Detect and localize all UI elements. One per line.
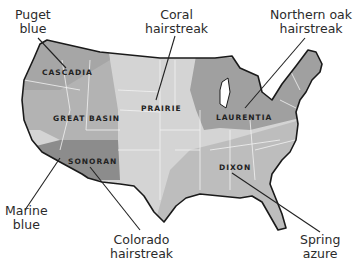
callout-spring-azure: Spring azure <box>300 233 340 261</box>
region-label-cascadia: CASCADIA <box>42 68 93 77</box>
us-map <box>0 0 355 264</box>
callout-colorado-hairstreak: Colorado hairstreak <box>110 233 173 261</box>
callout-northern-oak-hairstreak: Northern oak hairstreak <box>270 8 352 36</box>
callout-marine-blue: Marine blue <box>5 204 48 232</box>
callout-coral-hairstreak: Coral hairstreak <box>145 8 208 36</box>
region-label-great-basin: GREAT BASIN <box>53 114 120 123</box>
region-label-sonoran: SONORAN <box>68 157 117 166</box>
region-label-prairie: PRAIRIE <box>141 104 182 113</box>
region-label-dixon: DIXON <box>219 163 251 172</box>
callout-puget-blue: Puget blue <box>15 8 51 36</box>
region-label-laurentia: LAURENTIA <box>216 113 272 122</box>
